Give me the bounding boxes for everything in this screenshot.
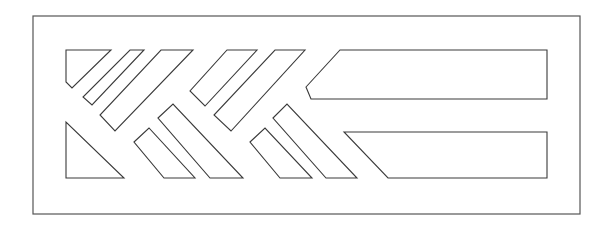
bottom-row-cutouts <box>66 104 547 178</box>
top-row-cutouts <box>66 50 547 131</box>
long-panel-top <box>306 50 547 99</box>
long-panel-bottom <box>344 132 547 178</box>
grille-drawing <box>0 0 613 227</box>
